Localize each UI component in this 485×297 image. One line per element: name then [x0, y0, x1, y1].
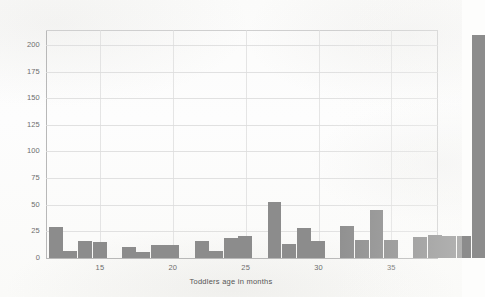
bar [151, 245, 165, 258]
x-tick-label: 20 [158, 263, 188, 272]
gridline-x [100, 30, 101, 258]
gridline-y [46, 98, 438, 99]
bar [413, 237, 427, 258]
x-tick-label: 35 [376, 263, 406, 272]
x-tick-label: 25 [231, 263, 261, 272]
bar [340, 226, 354, 258]
axis-spine-bottom [46, 258, 438, 259]
axis-spine-right [437, 30, 438, 258]
gridline-y [46, 205, 438, 206]
bar [428, 235, 442, 258]
y-tick-label: 150 [8, 93, 40, 102]
bar [384, 240, 398, 258]
axis-spine-top [46, 30, 438, 31]
bar [282, 244, 296, 258]
bar [311, 241, 325, 258]
y-tick-label: 200 [8, 40, 40, 49]
x-axis-title: Toddlers age in months [0, 277, 462, 286]
bar [93, 242, 107, 258]
x-tick-label: 15 [85, 263, 115, 272]
gridline-x [319, 30, 320, 258]
bar [355, 240, 369, 258]
gridline-y [46, 72, 438, 73]
bar [78, 241, 92, 258]
bar [442, 236, 456, 258]
bar [49, 227, 63, 258]
y-tick-label: 50 [8, 200, 40, 209]
y-tick-label: 75 [8, 173, 40, 182]
x-tick-label: 30 [304, 263, 334, 272]
bar [457, 236, 471, 258]
gridline-x [173, 30, 174, 258]
y-tick-label: 0 [8, 253, 40, 262]
bar [122, 247, 136, 258]
y-tick-label: 100 [8, 146, 40, 155]
bar [165, 245, 179, 258]
bar [136, 252, 150, 258]
bar [209, 251, 223, 258]
gridline-y [46, 151, 438, 152]
bar [472, 35, 485, 258]
bar [224, 238, 238, 258]
axis-spine-left [46, 30, 47, 258]
y-tick-label: 125 [8, 120, 40, 129]
bar [268, 202, 282, 258]
bar [63, 251, 77, 258]
bar [370, 210, 384, 258]
bar [238, 236, 252, 258]
gridline-x [246, 30, 247, 258]
y-tick-label: 25 [8, 226, 40, 235]
gridline-y [46, 178, 438, 179]
gridline-y [46, 45, 438, 46]
bar [195, 241, 209, 258]
gridline-x [391, 30, 392, 258]
bar [297, 228, 311, 258]
y-tick-label: 175 [8, 67, 40, 76]
gridline-y [46, 125, 438, 126]
